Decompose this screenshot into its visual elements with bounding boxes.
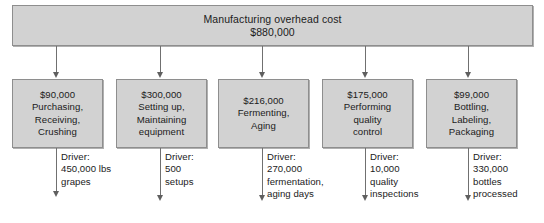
connector-arrow-2 xyxy=(157,72,163,78)
driver-arrow-2 xyxy=(157,195,163,201)
driver-arrow-1 xyxy=(53,191,59,197)
activity-1-line-2: Receiving, xyxy=(35,114,80,126)
activity-box-1: $90,000 Purchasing, Receiving, Crushing xyxy=(12,79,103,148)
activity-5-line-1: Bottling, xyxy=(454,101,489,113)
activity-1-line-1: Purchasing, xyxy=(32,101,83,113)
connector-arrow-1 xyxy=(53,72,59,78)
activity-4-amount: $175,000 xyxy=(347,89,387,101)
driver-3-line-1: 270,000 xyxy=(267,163,324,175)
activity-3-line-2: Aging xyxy=(251,120,276,132)
driver-5-label: Driver: xyxy=(473,151,518,163)
activity-box-2: $300,000 Setting up, Maintaining equipme… xyxy=(116,79,207,148)
driver-line-2 xyxy=(160,148,161,196)
activity-2-amount: $300,000 xyxy=(141,89,181,101)
activity-5-line-3: Packaging xyxy=(449,126,494,138)
driver-5-line-1: 330,000 xyxy=(473,163,518,175)
activity-1-amount: $90,000 xyxy=(40,89,75,101)
activity-1-line-3: Crushing xyxy=(38,126,77,138)
activity-2-line-1: Setting up, xyxy=(138,101,184,113)
driver-5-line-2: bottles xyxy=(473,176,518,188)
driver-1-line-1: 450,000 lbs xyxy=(61,163,111,175)
connector-line-4 xyxy=(365,46,366,73)
driver-line-3 xyxy=(262,148,263,196)
driver-block-1: Driver: 450,000 lbs grapes xyxy=(61,151,111,188)
driver-4-line-2: quality xyxy=(370,176,419,188)
driver-2-label: Driver: xyxy=(165,151,194,163)
driver-arrow-4 xyxy=(362,195,368,201)
activity-box-4: $175,000 Performing quality control xyxy=(322,79,413,148)
connector-arrow-4 xyxy=(362,72,368,78)
overhead-cost-pool-amount: $880,000 xyxy=(250,26,295,39)
driver-arrow-5 xyxy=(465,195,471,201)
driver-4-label: Driver: xyxy=(370,151,419,163)
driver-5-line-3: processed xyxy=(473,188,518,200)
driver-line-5 xyxy=(468,148,469,196)
driver-block-3: Driver: 270,000 fermentation, aging days xyxy=(267,151,324,201)
driver-arrow-3 xyxy=(259,195,265,201)
connector-line-3 xyxy=(262,46,263,73)
activity-4-line-1: Performing xyxy=(344,101,391,113)
connector-line-5 xyxy=(468,46,469,73)
activity-4-line-3: control xyxy=(353,126,382,138)
driver-block-2: Driver: 500 setups xyxy=(165,151,194,188)
driver-1-label: Driver: xyxy=(61,151,111,163)
driver-3-line-2: fermentation, xyxy=(267,176,324,188)
overhead-cost-pool-label: Manufacturing overhead cost xyxy=(203,13,341,26)
driver-line-4 xyxy=(365,148,366,196)
driver-block-5: Driver: 330,000 bottles processed xyxy=(473,151,518,201)
overhead-cost-pool-box: Manufacturing overhead cost $880,000 xyxy=(12,5,533,46)
activity-box-3: $216,000 Fermenting, Aging xyxy=(218,79,309,148)
driver-4-line-3: inspections xyxy=(370,188,419,200)
activity-3-line-1: Fermenting, xyxy=(238,107,290,119)
activity-4-line-2: quality xyxy=(353,114,381,126)
connector-arrow-3 xyxy=(259,72,265,78)
driver-4-line-1: 10,000 xyxy=(370,163,419,175)
activity-2-line-2: Maintaining xyxy=(137,114,187,126)
driver-2-line-2: setups xyxy=(165,176,194,188)
activity-2-line-3: equipment xyxy=(139,126,184,138)
driver-3-label: Driver: xyxy=(267,151,324,163)
diagram-canvas: Manufacturing overhead cost $880,000 $90… xyxy=(0,0,544,223)
driver-3-line-3: aging days xyxy=(267,188,324,200)
activity-box-5: $99,000 Bottling, Labeling, Packaging xyxy=(426,79,517,148)
activity-5-line-2: Labeling, xyxy=(452,114,491,126)
activity-3-amount: $216,000 xyxy=(243,95,283,107)
driver-1-line-2: grapes xyxy=(61,176,111,188)
activity-5-amount: $99,000 xyxy=(454,89,489,101)
connector-line-1 xyxy=(56,46,57,73)
connector-arrow-5 xyxy=(465,72,471,78)
connector-line-2 xyxy=(160,46,161,73)
driver-line-1 xyxy=(56,148,57,192)
driver-block-4: Driver: 10,000 quality inspections xyxy=(370,151,419,201)
driver-2-line-1: 500 xyxy=(165,163,194,175)
